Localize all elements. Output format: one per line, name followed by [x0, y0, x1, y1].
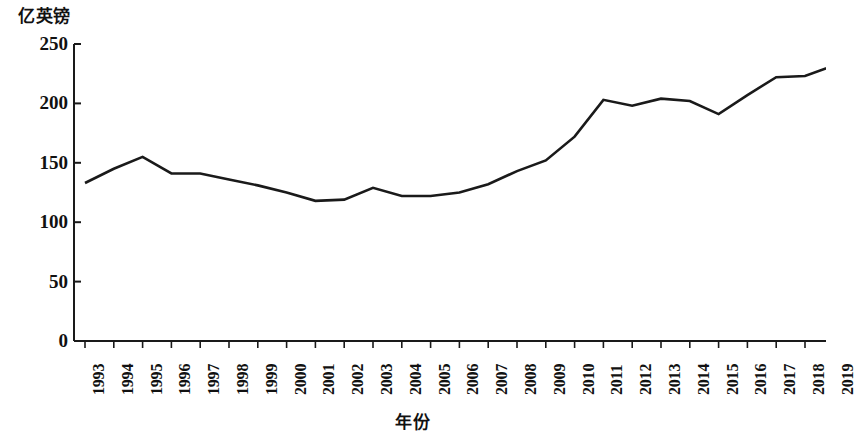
x-tick-label: 2014 — [696, 364, 712, 395]
y-tick-label: 0 — [16, 331, 68, 350]
x-tick-label: 1994 — [120, 364, 136, 395]
x-tick-label: 2013 — [667, 364, 683, 395]
data-series-line — [85, 65, 826, 200]
x-tick-label: 2016 — [753, 364, 769, 395]
x-tick-label: 1996 — [177, 364, 193, 395]
x-tick-label: 2007 — [494, 364, 510, 395]
x-tick-label: 2004 — [408, 364, 424, 395]
x-tick-label: 2003 — [379, 364, 395, 395]
y-tick-label: 250 — [16, 34, 68, 53]
y-tick-label: 100 — [16, 212, 68, 231]
x-tick-label: 2018 — [811, 364, 827, 395]
x-tick-label: 2005 — [437, 364, 453, 395]
x-tick-label: 2015 — [725, 364, 741, 395]
x-tick-label: 2012 — [638, 364, 654, 395]
x-tick-label: 2008 — [523, 364, 539, 395]
x-tick-label: 1995 — [149, 364, 165, 395]
y-tick-label: 50 — [16, 272, 68, 291]
x-tick-label: 1997 — [206, 364, 222, 395]
x-tick-label: 2009 — [552, 364, 568, 395]
x-axis-title: 年份 — [0, 408, 826, 433]
x-tick-label: 2010 — [581, 364, 597, 395]
x-tick-label: 2017 — [782, 364, 798, 395]
x-tick-label: 1993 — [91, 364, 107, 395]
x-tick-label: 1998 — [235, 364, 251, 395]
y-tick-label: 150 — [16, 153, 68, 172]
x-tick-label: 2002 — [350, 364, 366, 395]
x-tick-label: 2011 — [609, 365, 625, 395]
x-tick-label: 1999 — [264, 364, 280, 395]
x-tick-label: 2000 — [293, 364, 309, 395]
x-tick-label: 2006 — [465, 364, 481, 395]
y-tick-label: 200 — [16, 93, 68, 112]
axes — [74, 44, 826, 348]
x-tick-label: 2001 — [321, 364, 337, 395]
x-tick-label: 2019 — [840, 364, 856, 395]
